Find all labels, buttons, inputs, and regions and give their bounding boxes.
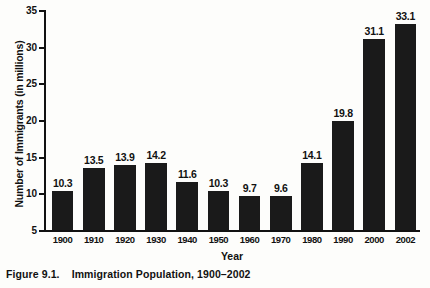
bar-group: 13.91920 [109,10,140,230]
bar-value-label: 13.5 [84,154,103,166]
bar-group: 11.61940 [172,10,203,230]
y-tick-label: 10 [26,188,37,199]
bar-value-label: 33.1 [396,10,415,22]
x-tick-label: 1920 [115,234,135,245]
figure-caption: Figure 9.1.Immigration Population, 1900–… [6,268,251,280]
bar-group: 10.31950 [203,10,234,230]
y-tick-mark [39,193,45,195]
bar-value-label: 13.9 [115,151,134,163]
y-tick-label: 20 [26,115,37,126]
bar: 10.3 [52,191,74,230]
y-tick-label: 25 [26,78,37,89]
bar-value-label: 14.1 [302,149,321,161]
bar-value-label: 31.1 [365,25,384,37]
x-tick-label: 1960 [240,234,260,245]
bar-group: 9.71960 [234,10,265,230]
bar-group: 19.81990 [328,10,359,230]
x-axis-title: Year [44,250,420,262]
x-tick-label: 1900 [53,234,73,245]
x-tick-label: 1910 [84,234,104,245]
bar: 11.6 [176,182,198,230]
x-tick-label: 1950 [209,234,229,245]
bar: 9.7 [239,196,261,230]
bar: 33.1 [395,24,417,230]
y-tick-mark [39,230,45,232]
y-tick-mark [39,83,45,85]
bar: 31.1 [363,39,385,230]
bar: 19.8 [332,121,354,230]
x-tick-label: 1980 [302,234,322,245]
bar-value-label: 9.6 [274,182,288,194]
y-tick-label: 15 [26,151,37,162]
x-tick-label: 1940 [177,234,197,245]
bar-group: 13.51910 [78,10,109,230]
x-tick-label: 1930 [146,234,166,245]
x-tick-label: 2000 [364,234,384,245]
bar: 13.5 [83,168,105,230]
bar-group: 14.11980 [296,10,327,230]
bar: 14.1 [301,163,323,230]
bar-value-label: 14.2 [146,149,165,161]
y-tick-label: 35 [26,5,37,16]
y-axis-title: Number of Immigrants (in millions) [13,19,25,229]
bar-value-label: 10.3 [209,177,228,189]
plot-area: 5101520253035 10.3190013.5191013.9192014… [44,10,418,230]
y-tick-label: 5 [31,225,37,236]
bar-group: 9.61970 [265,10,296,230]
x-tick-label: 2002 [396,234,416,245]
bar: 10.3 [208,191,230,230]
y-tick-label: 30 [26,41,37,52]
y-tick-mark [39,120,45,122]
bar-group: 10.31900 [47,10,78,230]
bar-group: 14.21930 [141,10,172,230]
bar-value-label: 10.3 [53,177,72,189]
x-axis-line [44,230,420,232]
bar-value-label: 19.8 [333,107,352,119]
bar-group: 33.12002 [390,10,421,230]
x-tick-label: 1970 [271,234,291,245]
bar: 9.6 [270,196,292,230]
x-tick-label: 1990 [333,234,353,245]
figure-immigration-population: Number of Immigrants (in millions) 51015… [0,0,430,288]
y-tick-mark [39,10,45,12]
y-tick-mark [39,47,45,49]
bar-value-label: 9.7 [243,182,257,194]
figure-number: Figure 9.1. [6,268,60,280]
bar: 14.2 [145,163,167,230]
bar-group: 31.12000 [359,10,390,230]
bar-value-label: 11.6 [178,168,197,180]
figure-caption-text: Immigration Population, 1900–2002 [72,268,251,280]
bar: 13.9 [114,165,136,230]
y-tick-mark [39,157,45,159]
